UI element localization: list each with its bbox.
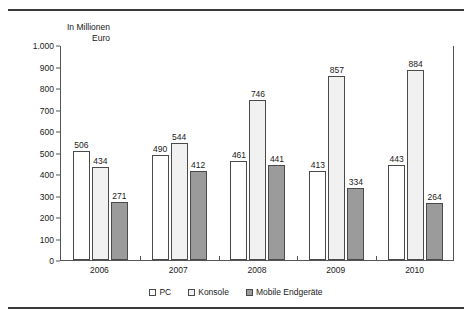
legend-item-label: PC [159, 288, 171, 297]
y-tick-label: 300 [40, 192, 54, 201]
bar-value-label: 461 [232, 151, 246, 160]
y-tick-label: 900 [40, 63, 54, 72]
bar-pc-2007[interactable]: 490 [152, 155, 169, 260]
bar-value-label: 412 [191, 161, 205, 170]
plot-axes: 5064342714905444124617464414138573344438… [60, 46, 454, 261]
legend-item-label: Mobile Endgeräte [256, 288, 323, 297]
y-tick-label: 400 [40, 171, 54, 180]
bar-value-label: 271 [112, 192, 126, 201]
bar-value-label: 334 [349, 178, 363, 187]
y-tick-label: 600 [40, 128, 54, 137]
bar-mobile-2010[interactable]: 264 [426, 203, 443, 260]
x-tick-label-2010: 2010 [405, 266, 424, 275]
bar-group: 461746441 [219, 46, 298, 260]
bar-value-label: 746 [251, 90, 265, 99]
y-tick-label: 200 [40, 214, 54, 223]
legend-swatch-icon [149, 289, 156, 296]
bar-pc-2010[interactable]: 443 [388, 165, 405, 260]
bar-value-label: 443 [389, 155, 403, 164]
x-tick-label-2006: 2006 [90, 266, 109, 275]
x-tick-mark [140, 256, 141, 260]
bar-group: 413857334 [297, 46, 376, 260]
x-tick-mark [297, 256, 298, 260]
y-tick-label: 100 [40, 235, 54, 244]
bar-konsole-2007[interactable]: 544 [171, 143, 188, 260]
y-tick-label: 1.000 [33, 42, 54, 51]
legend-swatch-icon [188, 289, 195, 296]
chart-legend: PCKonsoleMobile Endgeräte [0, 288, 472, 297]
bar-value-label: 264 [427, 193, 441, 202]
bar-value-label: 506 [74, 141, 88, 150]
x-tick-label-2008: 2008 [248, 266, 267, 275]
x-tick-label-2009: 2009 [326, 266, 345, 275]
bottom-divider [8, 307, 464, 309]
x-tick-mark [376, 256, 377, 260]
bar-value-label: 434 [93, 157, 107, 166]
bar-value-label: 490 [153, 145, 167, 154]
y-axis-labels: 01002003004005006007008009001.000 [16, 46, 60, 261]
legend-item-mobile[interactable]: Mobile Endgeräte [246, 288, 323, 297]
bar-value-label: 441 [270, 155, 284, 164]
bar-pc-2008[interactable]: 461 [230, 161, 247, 260]
x-axis-labels: 20062007200820092010 [60, 263, 454, 279]
top-divider [8, 9, 464, 11]
bar-mobile-2007[interactable]: 412 [190, 171, 207, 260]
x-tick-mark [219, 256, 220, 260]
legend-swatch-icon [246, 289, 253, 296]
y-tick-label: 800 [40, 85, 54, 94]
legend-item-pc[interactable]: PC [149, 288, 171, 297]
bar-konsole-2010[interactable]: 884 [407, 70, 424, 260]
bar-mobile-2009[interactable]: 334 [347, 188, 364, 260]
legend-item-label: Konsole [198, 288, 229, 297]
bar-group: 506434271 [61, 46, 140, 260]
bar-mobile-2008[interactable]: 441 [268, 165, 285, 260]
x-tick-label-2007: 2007 [169, 266, 188, 275]
bar-konsole-2009[interactable]: 857 [328, 76, 345, 260]
chart-figure: In Millionen Euro 0100200300400500600700… [0, 0, 472, 316]
bar-konsole-2008[interactable]: 746 [249, 100, 266, 260]
bar-mobile-2006[interactable]: 271 [111, 202, 128, 260]
bar-value-label: 544 [172, 133, 186, 142]
bar-value-label: 884 [408, 60, 422, 69]
y-tick-label: 0 [49, 257, 54, 266]
bar-value-label: 413 [311, 161, 325, 170]
y-tick-label: 500 [40, 149, 54, 158]
bar-konsole-2006[interactable]: 434 [92, 167, 109, 260]
bar-group: 490544412 [140, 46, 219, 260]
bar-group: 443884264 [376, 46, 455, 260]
bar-pc-2006[interactable]: 506 [73, 151, 90, 260]
legend-item-konsole[interactable]: Konsole [188, 288, 229, 297]
bar-pc-2009[interactable]: 413 [309, 171, 326, 260]
y-tick-label: 700 [40, 106, 54, 115]
plot-area: 5064342714905444124617464414138573344438… [61, 46, 453, 260]
plot-wrapper: 01002003004005006007008009001.000 506434… [0, 46, 472, 268]
bar-value-label: 857 [330, 66, 344, 75]
